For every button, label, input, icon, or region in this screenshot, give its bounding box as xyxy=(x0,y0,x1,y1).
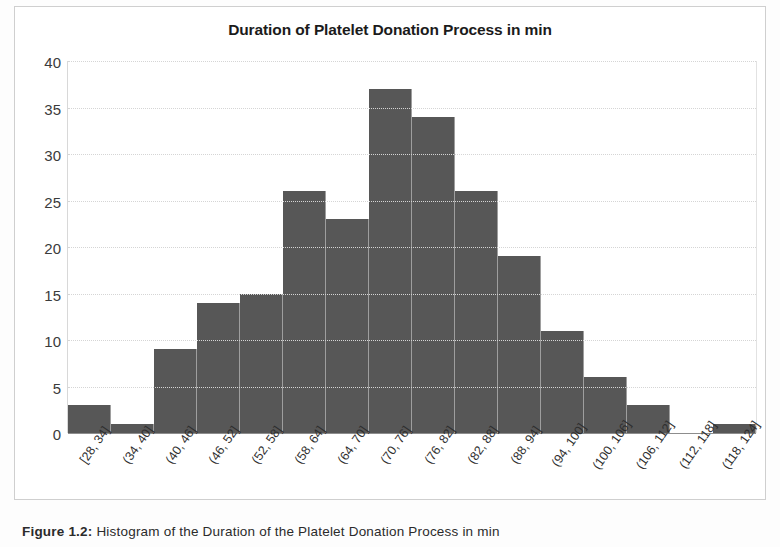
x-tick-slot: (106, 112] xyxy=(628,437,671,501)
figure-caption-label: Figure 1.2: xyxy=(22,524,92,539)
figure-caption-text: Histogram of the Duration of the Platele… xyxy=(96,524,499,539)
histogram-bar[interactable] xyxy=(240,294,283,434)
y-tick-label-20: 20 xyxy=(44,240,61,257)
figure-caption: Figure 1.2: Histogram of the Duration of… xyxy=(22,524,762,547)
x-tick-slot: (46, 52] xyxy=(196,437,239,501)
histogram-bar[interactable] xyxy=(326,219,369,433)
gridline-20: 20 xyxy=(68,247,756,248)
x-tick-slot: [28, 34] xyxy=(67,437,110,501)
y-tick-label-40: 40 xyxy=(44,54,61,71)
histogram-bar[interactable] xyxy=(541,331,584,433)
plot-area: 0510152025303540 xyxy=(67,61,757,433)
gridline-5: 5 xyxy=(68,387,756,388)
histogram-bar[interactable] xyxy=(369,89,412,433)
y-tick-label-35: 35 xyxy=(44,100,61,117)
chart-panel: Duration of Platelet Donation Process in… xyxy=(14,6,766,500)
x-tick-slot: (70, 76] xyxy=(369,437,412,501)
histogram-bar[interactable] xyxy=(455,191,498,433)
x-tick-slot: (58, 64] xyxy=(283,437,326,501)
x-tick-slot: (94, 100] xyxy=(541,437,584,501)
y-tick-label-0: 0 xyxy=(53,426,61,443)
y-tick-label-5: 5 xyxy=(53,379,61,396)
x-tick-slot: (88, 94] xyxy=(498,437,541,501)
gridline-10: 10 xyxy=(68,340,756,341)
x-tick-slot: (100, 106] xyxy=(585,437,628,501)
histogram-bar[interactable] xyxy=(283,191,326,433)
gridline-15: 15 xyxy=(68,294,756,295)
gridline-35: 35 xyxy=(68,108,756,109)
x-tick-slot: (76, 82] xyxy=(412,437,455,501)
x-tick-slot: (52, 58] xyxy=(240,437,283,501)
histogram-bar[interactable] xyxy=(197,303,240,433)
chart-title: Duration of Platelet Donation Process in… xyxy=(15,21,765,39)
gridline-30: 30 xyxy=(68,154,756,155)
y-tick-label-30: 30 xyxy=(44,147,61,164)
y-tick-label-15: 15 xyxy=(44,286,61,303)
figure-container: Duration of Platelet Donation Process in… xyxy=(0,0,780,547)
gridline-40: 40 xyxy=(68,61,756,62)
gridline-25: 25 xyxy=(68,201,756,202)
x-tick-slot: (34, 40] xyxy=(110,437,153,501)
histogram-bar[interactable] xyxy=(154,349,197,433)
y-tick-label-10: 10 xyxy=(44,333,61,350)
x-tick-slot: (40, 46] xyxy=(153,437,196,501)
x-tick-slot: (112, 118] xyxy=(671,437,714,501)
x-tick-slot: (82, 88] xyxy=(455,437,498,501)
histogram-bar[interactable] xyxy=(498,256,541,433)
x-tick-slot: (118, 124] xyxy=(714,437,757,501)
y-tick-label-25: 25 xyxy=(44,193,61,210)
x-axis-tick-labels: [28, 34](34, 40](40, 46](46, 52](52, 58]… xyxy=(67,437,757,501)
x-tick-slot: (64, 70] xyxy=(326,437,369,501)
